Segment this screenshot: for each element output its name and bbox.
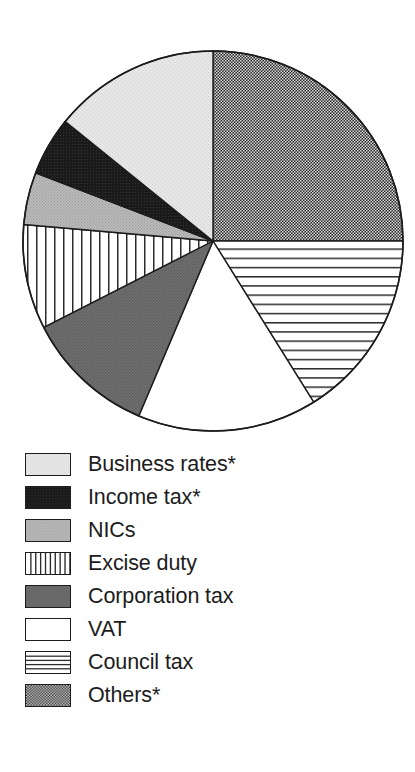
- legend-swatch-others: [25, 684, 71, 707]
- legend-item-label: Others*: [88, 684, 160, 707]
- legend-swatch-nics: [25, 519, 71, 542]
- pie-slice-others[interactable]: [213, 51, 403, 241]
- legend-item[interactable]: VAT: [0, 613, 415, 646]
- pie-chart-svg: [0, 0, 415, 450]
- legend-item-label: Council tax: [88, 651, 193, 674]
- legend-swatch-vat: [25, 618, 71, 641]
- pie-slice-group: [23, 51, 403, 431]
- legend-swatch-business-rates: [25, 453, 71, 476]
- legend-swatch-corporation-tax: [25, 585, 71, 608]
- legend-item-label: Business rates*: [88, 453, 236, 476]
- legend-item[interactable]: Others*: [0, 679, 415, 712]
- legend-item-label: Income tax*: [88, 486, 200, 509]
- legend-swatch-income-tax: [25, 486, 71, 509]
- legend-item-label: Corporation tax: [88, 585, 234, 608]
- legend-item-label: Excise duty: [88, 552, 197, 575]
- pie-chart-plot-area: [0, 0, 415, 450]
- chart-legend: Business rates*Income tax*NICsExcise dut…: [0, 448, 415, 712]
- legend-item[interactable]: Income tax*: [0, 481, 415, 514]
- legend-item-label: NICs: [88, 519, 135, 542]
- legend-item[interactable]: Business rates*: [0, 448, 415, 481]
- pie-chart-figure: Business rates*Income tax*NICsExcise dut…: [0, 0, 415, 772]
- legend-swatch-excise-duty: [25, 552, 71, 575]
- legend-item-label: VAT: [88, 618, 126, 641]
- legend-item[interactable]: Council tax: [0, 646, 415, 679]
- legend-item[interactable]: Excise duty: [0, 547, 415, 580]
- legend-item[interactable]: Corporation tax: [0, 580, 415, 613]
- legend-swatch-council-tax: [25, 651, 71, 674]
- legend-item[interactable]: NICs: [0, 514, 415, 547]
